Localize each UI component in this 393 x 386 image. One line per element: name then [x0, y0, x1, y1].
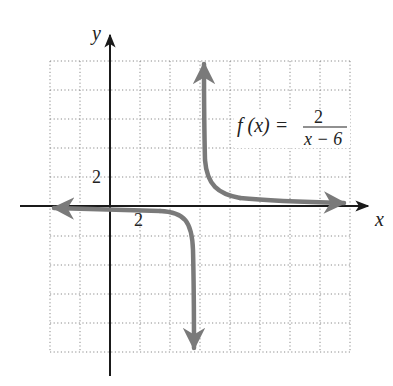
left-branch-tail	[54, 208, 160, 211]
x-axis-label: x	[374, 208, 384, 230]
svg-text:x − 6: x − 6	[303, 129, 342, 149]
x-tick-label: 2	[134, 210, 143, 230]
function-graph: f (x) = 2 x − 6 y x 2 2	[0, 0, 393, 386]
left-branch	[160, 211, 194, 348]
function-label: f (x) = 2 x − 6	[234, 107, 350, 149]
right-branch-tail	[240, 198, 344, 203]
svg-text:2: 2	[314, 107, 323, 127]
svg-text:f (x) =: f (x) =	[237, 114, 288, 137]
y-tick-label: 2	[92, 167, 101, 187]
y-axis-label: y	[90, 22, 101, 45]
